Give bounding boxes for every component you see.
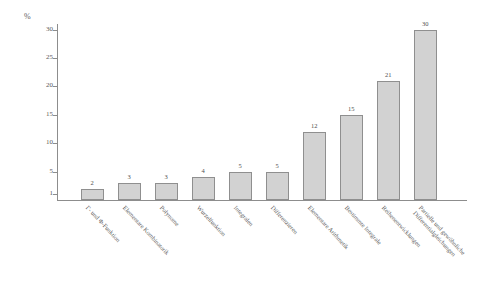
bar-group: 12 (303, 24, 326, 200)
y-axis-tick-label: 25 (46, 53, 53, 61)
bar (155, 183, 178, 200)
y-axis-tick-label: 15 (46, 110, 53, 118)
bar-value-label: 5 (266, 162, 289, 169)
y-axis-tick-mark (53, 30, 57, 31)
y-axis-tick-mark (53, 143, 57, 144)
y-axis-tick-mark (53, 58, 57, 59)
x-axis-category-label: Elementare Arithmetik (307, 204, 351, 250)
x-axis-category-label-line: Differenzieren (270, 204, 300, 235)
bar-value-label: 12 (303, 122, 326, 129)
bar-value-label: 21 (377, 71, 400, 78)
bar (303, 132, 326, 200)
y-axis-tick-label: 1 (50, 189, 54, 197)
bar-group: 2 (81, 24, 104, 200)
bar-group: 3 (155, 24, 178, 200)
bar (229, 172, 252, 200)
bar-value-label: 2 (81, 179, 104, 186)
x-axis-category-label: Wurzelfunktion (196, 204, 228, 238)
bar (377, 81, 400, 200)
bar-group: 15 (340, 24, 363, 200)
y-axis-tick-mark (53, 172, 57, 173)
bar-group: 5 (229, 24, 252, 200)
y-axis-tick-label: 30 (46, 25, 53, 33)
bar-value-label: 3 (155, 173, 178, 180)
x-axis-category-label: Polynome (159, 204, 182, 227)
y-axis-tick-label: 10 (46, 138, 53, 146)
bar (118, 183, 141, 200)
y-axis-tick-mark (53, 86, 57, 87)
bar-group: 4 (192, 24, 215, 200)
y-axis-tick-label: 20 (46, 81, 53, 89)
x-axis-category-label: Integralen (233, 204, 256, 227)
bar-value-label: 5 (229, 162, 252, 169)
bar-group: 21 (377, 24, 400, 200)
x-axis-category-label-line: Bestimmte Integrale (344, 204, 383, 246)
bar (81, 189, 104, 200)
bar-group: 5 (266, 24, 289, 200)
bar-value-label: 4 (192, 167, 215, 174)
x-axis-category-label: Differenzieren (270, 204, 300, 235)
x-axis-category-label: Partielle und gewöhnlicheDifferentialgle… (412, 204, 467, 261)
x-axis-category-label-line: Γ- und Φ-Funktion (85, 204, 122, 243)
x-axis-category-label-line: Integralen (233, 204, 255, 227)
y-axis-tick-mark (53, 115, 57, 116)
bar (266, 172, 289, 200)
bar-chart: % 151015202530 23345512152130 Γ- und Φ-F… (0, 0, 491, 295)
bar (414, 30, 437, 200)
y-axis-tick-mark (53, 194, 57, 195)
bar-value-label: 3 (118, 173, 141, 180)
bar-group: 3 (118, 24, 141, 200)
bar-group: 30 (414, 24, 437, 200)
y-axis-tick-label: 5 (50, 167, 54, 175)
bar-value-label: 30 (414, 20, 437, 27)
x-axis-category-labels: Γ- und Φ-FunktionElementare Kombinatorik… (0, 200, 491, 295)
bar-value-label: 15 (340, 105, 363, 112)
x-axis-category-label: Bestimmte Integrale (344, 204, 384, 246)
bar (192, 177, 215, 200)
plot-area: 23345512152130 (58, 24, 467, 200)
bar (340, 115, 363, 200)
x-axis-category-label-line: Partielle und gewöhnliche (418, 204, 467, 256)
x-axis-category-label-line: Differentialgleichungen (412, 209, 462, 261)
y-axis-title: % (24, 12, 31, 21)
x-axis-category-label-line: Elementare Arithmetik (307, 204, 351, 250)
x-axis-category-label-line: Polynome (159, 204, 181, 227)
x-axis-category-label-line: Wurzelfunktion (196, 204, 228, 237)
x-axis-category-label: Γ- und Φ-Funktion (85, 204, 123, 243)
